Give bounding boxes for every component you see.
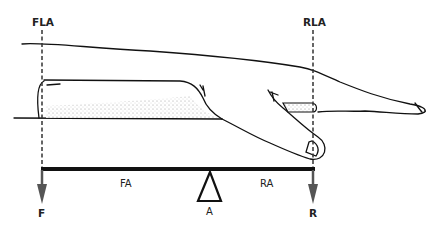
forearm-shading [46, 96, 218, 118]
thumb-web-shading [283, 103, 317, 112]
label-ra: RA [260, 179, 273, 189]
lever-diagram: FLA RLA FA RA F A R [0, 0, 447, 226]
label-r: R [309, 208, 317, 219]
hand-outline [14, 44, 425, 160]
resistance-arrow [308, 170, 318, 204]
label-a: A [206, 207, 213, 217]
label-fla: FLA [32, 17, 54, 28]
label-rla: RLA [303, 17, 326, 28]
label-fa: FA [120, 179, 132, 189]
force-arrow [37, 170, 47, 204]
label-f: F [38, 208, 45, 219]
fulcrum-triangle [198, 172, 221, 201]
